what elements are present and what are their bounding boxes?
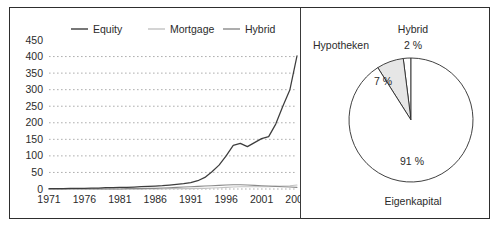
pie-label-eigenkapital: Eigenkapital: [384, 195, 441, 207]
pie-chart-panel: 91 %7 %2 %HybridHypothekenEigenkapital: [301, 7, 490, 219]
pie-percent-hybrid: 2 %: [404, 39, 422, 51]
y-axis-tick-label: 300: [25, 83, 43, 95]
y-axis-tick-label: 200: [25, 116, 43, 128]
y-axis-tick-label: 150: [25, 133, 43, 145]
x-axis-tick-label: 1976: [73, 193, 97, 205]
x-axis-tick-label: 2006: [285, 193, 301, 205]
x-axis-tick-label: 1991: [179, 193, 203, 205]
line-chart-panel: 0501001502002503003504004501971197619811…: [9, 7, 301, 219]
y-axis-tick-label: 50: [31, 166, 43, 178]
x-axis-tick-label: 1971: [37, 193, 61, 205]
x-axis-tick-label: 1996: [214, 193, 238, 205]
y-axis-tick-label: 400: [25, 50, 43, 62]
line-series-equity: [49, 56, 297, 189]
x-axis-tick-label: 1981: [108, 193, 132, 205]
pie-label-hypotheken: Hypotheken: [313, 39, 369, 51]
pie-label-hybrid: Hybrid: [398, 23, 429, 35]
pie-percent-hypotheken: 7 %: [374, 75, 392, 87]
pie-percent-eigenkapital: 91 %: [400, 155, 424, 167]
y-axis-tick-label: 100: [25, 149, 43, 161]
y-axis-tick-label: 350: [25, 67, 43, 79]
x-axis-tick-label: 1986: [144, 193, 168, 205]
figure-container: 0501001502002503003504004501971197619811…: [0, 0, 499, 227]
y-axis-tick-label: 250: [25, 100, 43, 112]
x-axis-tick-label: 2001: [250, 193, 274, 205]
pie-chart-svg: 91 %7 %2 %HybridHypothekenEigenkapital: [301, 7, 490, 219]
legend-label-mortgage: Mortgage: [170, 23, 215, 35]
y-axis-tick-label: 450: [25, 34, 43, 46]
legend-label-hybrid: Hybrid: [245, 23, 276, 35]
legend-label-equity: Equity: [93, 23, 123, 35]
line-chart-svg: 0501001502002503003504004501971197619811…: [9, 7, 301, 219]
